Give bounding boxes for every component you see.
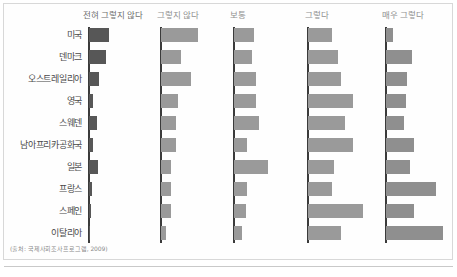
bar (386, 182, 436, 196)
country-label-0: 미국 (67, 28, 82, 42)
country-label-1: 덴마크 (59, 50, 82, 64)
panel-0 (88, 25, 114, 247)
bar (89, 182, 92, 196)
bar (308, 72, 341, 86)
bar (308, 160, 334, 174)
country-label-7: 프랑스 (59, 182, 82, 196)
bar (386, 226, 443, 240)
bar (161, 160, 171, 174)
bar (161, 116, 176, 130)
country-label-5: 남아프리카공화국 (20, 138, 82, 152)
bar (234, 116, 259, 130)
country-label-2: 오스트레일리아 (28, 72, 82, 86)
bar (308, 116, 345, 130)
source-note: (출처: 국제사회조사프로그램, 2009) (10, 244, 108, 253)
bar (89, 116, 97, 130)
bar (386, 160, 410, 174)
bar (234, 72, 256, 86)
bar (89, 28, 109, 42)
panel-1 (160, 25, 203, 247)
page-divider-rule (4, 266, 453, 267)
bar (161, 72, 191, 86)
chart-screenshot: 전혀 그렇지 않다그렇지 않다보통그렇다매우 그렇다 미국덴마크오스트레일리아영… (0, 0, 457, 277)
bar (234, 160, 268, 174)
bar (234, 204, 246, 218)
bar (308, 138, 353, 152)
bar (234, 138, 247, 152)
bar (308, 226, 341, 240)
bar (89, 94, 93, 108)
bar (386, 72, 407, 86)
panel-header-4: 매우 그렇다 (382, 9, 424, 21)
bar (161, 50, 181, 64)
bar (89, 72, 99, 86)
bar (161, 138, 176, 152)
panel-header-row: 전혀 그렇지 않다그렇지 않다보통그렇다매우 그렇다 (0, 9, 457, 23)
bar (386, 116, 404, 130)
country-label-column: 미국덴마크오스트레일리아영국스웨덴남아프리카공화국일본프랑스스페인이탈리아 (0, 25, 86, 247)
country-label-9: 이탈리아 (51, 226, 82, 240)
bar (234, 182, 247, 196)
bar (89, 160, 98, 174)
panel-2 (233, 25, 273, 247)
bar (161, 226, 166, 240)
country-label-3: 영국 (67, 94, 82, 108)
bar (386, 28, 393, 42)
bar (386, 50, 412, 64)
bar (234, 226, 242, 240)
panel-3 (307, 25, 368, 247)
country-label-6: 일본 (67, 160, 82, 174)
bar (234, 28, 254, 42)
bar (308, 204, 363, 218)
bar (161, 94, 178, 108)
bar (308, 94, 353, 108)
panel-header-0: 전혀 그렇지 않다 (83, 9, 143, 21)
bar (89, 204, 91, 218)
bar (89, 50, 106, 64)
bar (161, 28, 198, 42)
bar (308, 28, 332, 42)
panel-header-2: 보통 (230, 9, 246, 21)
bar (234, 94, 256, 108)
bar (234, 50, 252, 64)
bar (161, 204, 171, 218)
bar (386, 204, 414, 218)
panel-header-3: 그렇다 (305, 9, 328, 21)
bar (386, 138, 414, 152)
bar (89, 138, 93, 152)
bar (308, 182, 332, 196)
bar (89, 226, 90, 240)
bar (161, 182, 171, 196)
country-label-4: 스웨덴 (59, 116, 82, 130)
panel-4 (385, 25, 448, 247)
bar (386, 94, 406, 108)
country-label-8: 스페인 (59, 204, 82, 218)
panel-header-1: 그렇지 않다 (157, 9, 199, 21)
bar (308, 50, 338, 64)
